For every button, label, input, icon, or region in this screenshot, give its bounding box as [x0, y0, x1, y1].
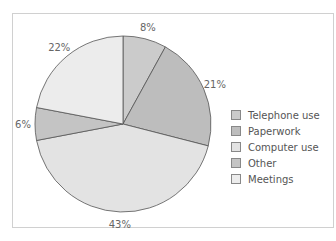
- swatch-icon: [231, 110, 241, 120]
- slice-label: 8%: [140, 22, 156, 33]
- slice-label: 22%: [48, 42, 70, 53]
- swatch-icon: [231, 158, 241, 168]
- swatch-icon: [231, 126, 241, 136]
- legend-item-other: Other: [231, 155, 320, 171]
- slice-label: 6%: [15, 119, 31, 130]
- slice-label: 43%: [109, 219, 131, 230]
- slice-label: 21%: [204, 79, 226, 90]
- legend-item-computer: Computer use: [231, 139, 320, 155]
- legend-item-telephone: Telephone use: [231, 107, 320, 123]
- swatch-icon: [231, 174, 241, 184]
- legend-item-paperwork: Paperwork: [231, 123, 320, 139]
- legend-item-meetings: Meetings: [231, 171, 320, 187]
- swatch-icon: [231, 142, 241, 152]
- legend: Telephone use Paperwork Computer use Oth…: [231, 107, 320, 187]
